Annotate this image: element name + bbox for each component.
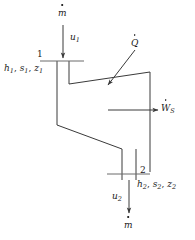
- station-1-properties-label: h1, s1, z1: [4, 64, 43, 74]
- control-volume-outline: [57, 61, 150, 180]
- inlet-mass-flow-label: m: [58, 9, 67, 18]
- heat-rate-label: Q: [131, 39, 138, 48]
- outlet-mass-flow-label: m: [124, 221, 133, 230]
- station-1-number-label: 1: [37, 50, 43, 59]
- cv-upper-slant-wall: [69, 72, 150, 84]
- station-2-number-label: 2: [140, 166, 146, 175]
- outlet-velocity-label: u2: [112, 192, 122, 202]
- control-volume-figure: m u1 1 h1, s1, z1 Q WS 2 h2, s2, z2 u2 m: [0, 0, 195, 240]
- shaft-work-label: WS: [161, 104, 175, 114]
- heat-input-arrow: [108, 50, 135, 85]
- diagram-canvas: [0, 0, 195, 240]
- cv-lower-slant-wall: [57, 125, 122, 149]
- station-2-properties-label: h2, s2, z2: [137, 180, 176, 190]
- inlet-velocity-label: u1: [70, 33, 80, 43]
